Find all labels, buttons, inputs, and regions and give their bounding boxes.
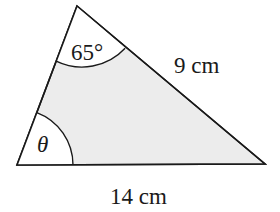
side-length-label: 9 cm: [174, 53, 219, 78]
base-length-label: 14 cm: [110, 184, 167, 209]
triangle-diagram: 65° θ 9 cm 14 cm: [0, 0, 280, 212]
top-angle-label: 65°: [71, 40, 103, 65]
theta-label: θ: [37, 132, 48, 157]
